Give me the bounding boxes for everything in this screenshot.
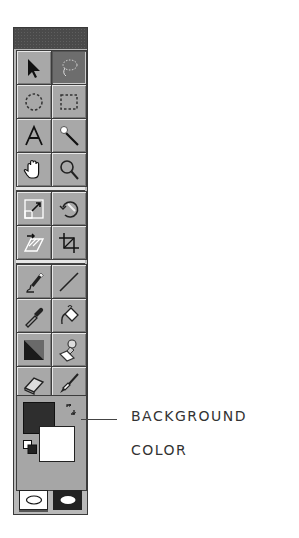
callout-pointer-line — [81, 419, 117, 420]
gradient-icon — [22, 338, 46, 362]
palette-title-bar[interactable] — [14, 28, 87, 49]
default-colors-icon[interactable] — [23, 440, 37, 454]
standard-mode-icon — [25, 495, 43, 505]
pencil-tool-button[interactable] — [17, 265, 51, 298]
standard-mode-button[interactable] — [19, 490, 48, 510]
mask-mode-buttons — [16, 490, 88, 512]
scale-tool-button[interactable] — [17, 192, 51, 225]
tool-group-painting — [16, 264, 87, 401]
lasso-icon — [57, 56, 81, 80]
eraser-icon — [22, 372, 46, 396]
eyedropper-icon — [22, 304, 46, 328]
zoom-tool-button[interactable] — [52, 153, 86, 186]
rectangular-marquee-tool-button[interactable] — [52, 85, 86, 118]
skew-tool-button[interactable] — [17, 226, 51, 259]
type-tool-button[interactable] — [17, 119, 51, 152]
elliptical-marquee-icon — [22, 90, 46, 114]
line-icon — [57, 270, 81, 294]
elliptical-marquee-tool-button[interactable] — [17, 85, 51, 118]
toolbox-palette — [13, 27, 88, 515]
paint-bucket-tool-button[interactable] — [52, 299, 86, 332]
tool-group-selection — [16, 50, 87, 187]
crop-icon — [57, 231, 81, 255]
paint-bucket-icon — [57, 304, 81, 328]
rectangular-marquee-icon — [57, 90, 81, 114]
type-icon — [22, 124, 46, 148]
hand-tool-button[interactable] — [17, 153, 51, 186]
eyedropper-tool-button[interactable] — [17, 299, 51, 332]
line-tool-button[interactable] — [52, 265, 86, 298]
gradient-tool-button[interactable] — [17, 333, 51, 366]
quick-mask-icon — [59, 495, 77, 505]
magnifier-icon — [57, 158, 81, 182]
rubber-stamp-tool-button[interactable] — [52, 333, 86, 366]
skew-icon — [22, 231, 46, 255]
color-selection-area — [16, 395, 87, 491]
rubber-stamp-icon — [57, 338, 81, 362]
rotate-icon — [57, 197, 81, 221]
tool-group-transform — [16, 191, 87, 260]
rotate-tool-button[interactable] — [52, 192, 86, 225]
quick-mask-mode-button[interactable] — [53, 490, 82, 510]
arrow-pointer-icon — [22, 56, 46, 80]
background-color-swatch[interactable] — [39, 426, 75, 462]
callout-label-line2: COLOR — [131, 442, 187, 458]
paintbrush-icon — [57, 372, 81, 396]
magic-wand-tool-button[interactable] — [52, 119, 86, 152]
crop-tool-button[interactable] — [52, 226, 86, 259]
move-tool-button[interactable] — [17, 51, 51, 84]
pencil-icon — [22, 270, 46, 294]
magic-wand-icon — [57, 124, 81, 148]
hand-icon — [22, 158, 46, 182]
callout-label-line1: BACKGROUND — [131, 408, 247, 424]
lasso-tool-button[interactable] — [52, 51, 86, 84]
swap-colors-icon[interactable] — [65, 404, 77, 416]
scale-icon — [22, 197, 46, 221]
